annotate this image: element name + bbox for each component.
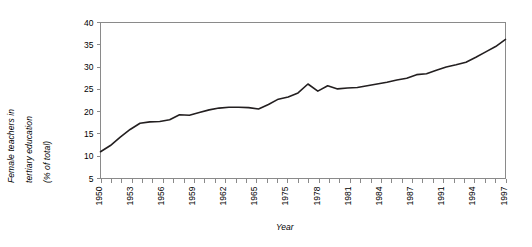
y-tick-label: 20 <box>84 107 94 117</box>
x-tick-label: 1978 <box>312 186 322 205</box>
x-tick-label: 1953 <box>125 186 135 205</box>
x-tick-label: 1956 <box>156 186 166 205</box>
y-tick-label: 10 <box>84 151 94 161</box>
x-tick-label: 1994 <box>467 186 477 205</box>
x-tick-label: 1965 <box>249 186 259 205</box>
x-axis-ticks: 1950195319561959196219651975197819811984… <box>94 179 509 206</box>
y-axis-label-line-1: Female teachers in <box>6 109 16 183</box>
x-tick-label: 1962 <box>218 186 228 205</box>
x-tick-label: 1984 <box>374 186 384 205</box>
x-axis-label: Year <box>276 222 294 232</box>
plot-frame <box>101 23 506 179</box>
y-axis-label-line-3: (% of total) <box>42 141 52 183</box>
y-tick-label: 30 <box>84 62 94 72</box>
y-tick-label: 15 <box>84 129 94 139</box>
data-series-group <box>101 39 506 151</box>
y-tick-label: 35 <box>84 40 94 50</box>
y-tick-label: 25 <box>84 84 94 94</box>
y-tick-label: 5 <box>89 174 94 184</box>
x-tick-label: 1991 <box>436 186 446 205</box>
chart-figure: Female teachers in tertiary education (%… <box>0 0 532 247</box>
x-tick-label: 1975 <box>280 186 290 205</box>
x-tick-label: 1981 <box>343 186 353 205</box>
x-tick-label: 1959 <box>187 186 197 205</box>
data-line <box>101 39 506 151</box>
x-tick-label: 1950 <box>94 186 104 205</box>
y-tick-label: 40 <box>84 18 94 28</box>
x-tick-label: 1997 <box>499 186 509 205</box>
y-axis-label-line-2: tertiary education <box>24 116 34 183</box>
x-tick-label: 1987 <box>405 186 415 205</box>
line-chart-plot: 510152025303540 195019531956195919621965… <box>0 0 532 247</box>
y-axis-label: Female teachers in tertiary education (%… <box>14 18 76 183</box>
y-axis-ticks: 510152025303540 <box>84 18 100 184</box>
